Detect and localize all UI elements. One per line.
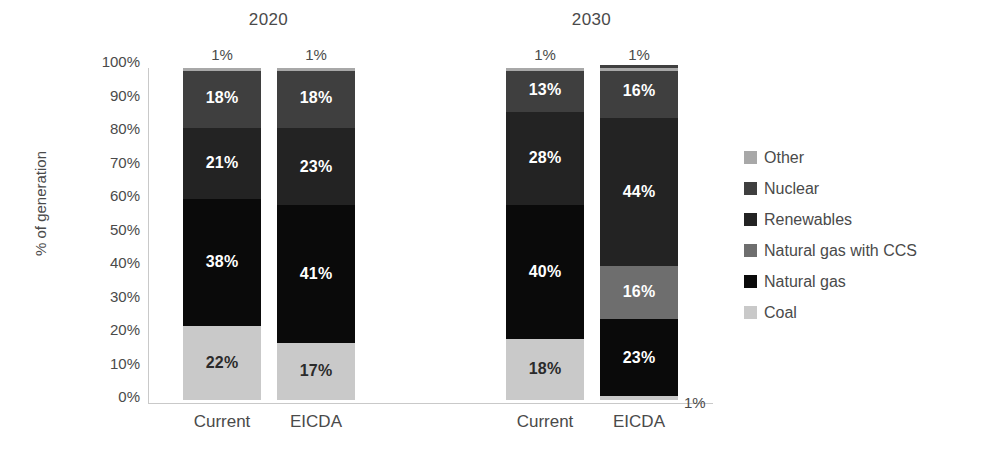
x-axis-category-2020-current: Current: [183, 412, 261, 432]
legend-item-natural-gas[interactable]: Natural gas: [744, 266, 917, 297]
bar-segment-other[interactable]: [277, 68, 355, 71]
legend-item-nuclear[interactable]: Nuclear: [744, 173, 917, 204]
segment-value-label: 13%: [529, 81, 562, 99]
legend-label: Renewables: [764, 211, 852, 229]
x-axis-category-2020-eicda: EICDA: [277, 412, 355, 432]
legend-swatch-icon: [744, 306, 757, 319]
legend-swatch-icon: [744, 182, 757, 195]
segment-value-label: 23%: [300, 158, 333, 176]
bar-segment-natural-gas[interactable]: 40%: [506, 205, 584, 339]
legend-item-coal[interactable]: Coal: [744, 297, 917, 328]
bar-segment-natural-gas[interactable]: 38%: [183, 199, 261, 326]
bar-segment-other[interactable]: [506, 68, 584, 71]
segment-value-label: 21%: [206, 154, 239, 172]
bar-segment-coal[interactable]: 18%: [506, 339, 584, 399]
segment-value-label: 16%: [623, 283, 656, 301]
bar-segment-nuclear[interactable]: 16%: [600, 65, 678, 119]
legend-label: Other: [764, 149, 804, 167]
bar-segment-nuclear[interactable]: 18%: [277, 68, 355, 128]
segment-value-label: 18%: [206, 89, 239, 107]
bar-segment-renewables[interactable]: 23%: [277, 128, 355, 205]
bar-2030-current[interactable]: 13%28%40%18%: [506, 68, 584, 403]
legend-label: Nuclear: [764, 180, 819, 198]
legend-item-other[interactable]: Other: [744, 142, 917, 173]
bar-segment-other[interactable]: [600, 68, 678, 71]
stacked-bar-chart: 2020 2030 % of generation 100%90%80%70%6…: [0, 0, 986, 459]
bar-segment-natural-gas[interactable]: 41%: [277, 205, 355, 342]
bar-segment-coal[interactable]: 17%: [277, 343, 355, 400]
segment-value-label: 38%: [206, 253, 239, 271]
segment-value-label: 40%: [529, 263, 562, 281]
legend-item-renewables[interactable]: Renewables: [744, 204, 917, 235]
bar-top-label-other: 1%: [600, 46, 678, 63]
bar-segment-natural-gas-with-ccs[interactable]: 16%: [600, 266, 678, 320]
bar-top-label-other: 1%: [506, 46, 584, 63]
legend-swatch-icon: [744, 244, 757, 257]
segment-value-label: 22%: [206, 354, 239, 372]
segment-value-label: 17%: [300, 362, 333, 380]
bar-bottom-label-coal: 1%: [684, 394, 706, 411]
segment-value-label: 18%: [300, 89, 333, 107]
bar-2030-eicda[interactable]: 16%44%16%23%: [600, 68, 678, 403]
bar-segment-renewables[interactable]: 44%: [600, 118, 678, 265]
x-axis-category-2030-current: Current: [506, 412, 584, 432]
segment-value-label: 28%: [529, 149, 562, 167]
legend-label: Natural gas with CCS: [764, 242, 917, 260]
legend-item-natural-gas-with-ccs[interactable]: Natural gas with CCS: [744, 235, 917, 266]
segment-value-label: 18%: [529, 360, 562, 378]
bar-segment-nuclear[interactable]: 13%: [506, 68, 584, 112]
x-axis-category-2030-eicda: EICDA: [600, 412, 678, 432]
bar-segment-coal[interactable]: 22%: [183, 326, 261, 400]
bar-top-label-other: 1%: [183, 46, 261, 63]
bar-segment-natural-gas[interactable]: 23%: [600, 319, 678, 396]
segment-value-label: 23%: [623, 349, 656, 367]
bar-segment-coal[interactable]: [600, 396, 678, 399]
bar-segment-renewables[interactable]: 28%: [506, 112, 584, 206]
segment-value-label: 44%: [623, 183, 656, 201]
segment-value-label: 41%: [300, 265, 333, 283]
chart-legend: OtherNuclearRenewablesNatural gas with C…: [744, 142, 917, 328]
legend-label: Natural gas: [764, 273, 846, 291]
legend-label: Coal: [764, 304, 797, 322]
segment-value-label: 16%: [623, 82, 656, 100]
bar-segment-other[interactable]: [183, 68, 261, 71]
bar-2020-eicda[interactable]: 18%23%41%17%: [277, 68, 355, 403]
legend-swatch-icon: [744, 151, 757, 164]
bar-segment-renewables[interactable]: 21%: [183, 128, 261, 198]
legend-swatch-icon: [744, 275, 757, 288]
bar-top-label-other: 1%: [277, 46, 355, 63]
bar-2020-current[interactable]: 18%21%38%22%: [183, 68, 261, 403]
bar-segment-nuclear[interactable]: 18%: [183, 68, 261, 128]
legend-swatch-icon: [744, 213, 757, 226]
